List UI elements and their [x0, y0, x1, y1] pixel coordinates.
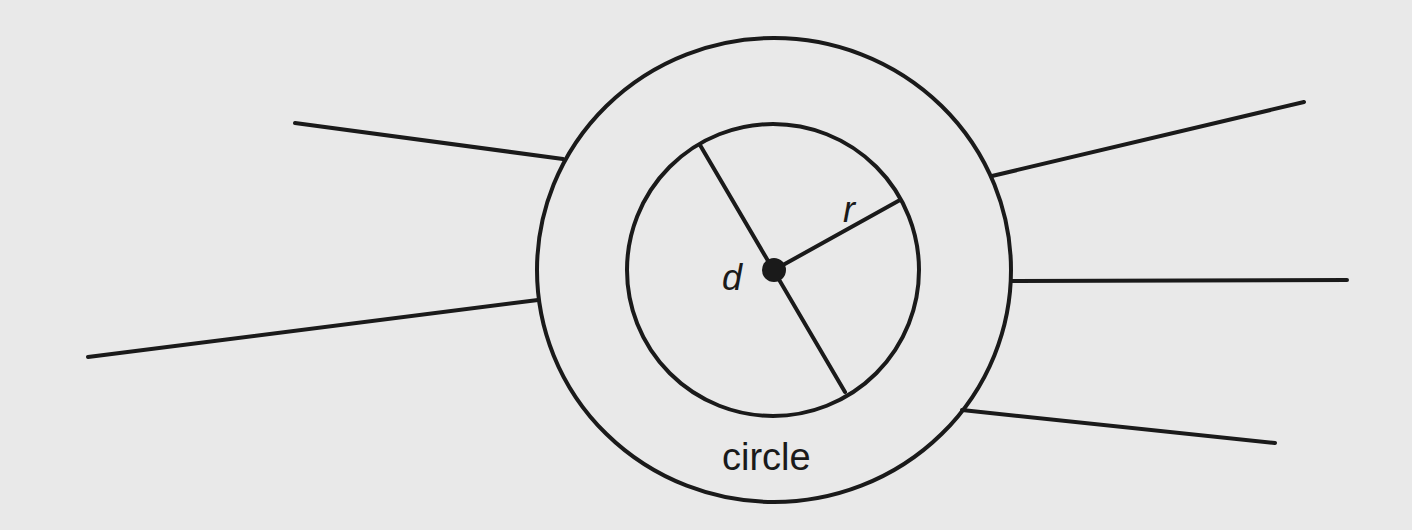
diagram-canvas: r d circle [0, 0, 1412, 530]
center-point [762, 258, 786, 282]
label-line-right-middle [1012, 280, 1347, 281]
diameter-label: d [722, 257, 743, 298]
circle-labeling-diagram: r d circle [0, 0, 1412, 530]
label-line-left-top [295, 123, 563, 159]
circle-label: circle [722, 436, 811, 478]
label-line-right-bottom [962, 410, 1275, 443]
radius-line [774, 200, 900, 270]
radius-label: r [843, 189, 857, 230]
label-line-right-top [992, 102, 1304, 176]
label-line-left-bottom [88, 300, 538, 357]
